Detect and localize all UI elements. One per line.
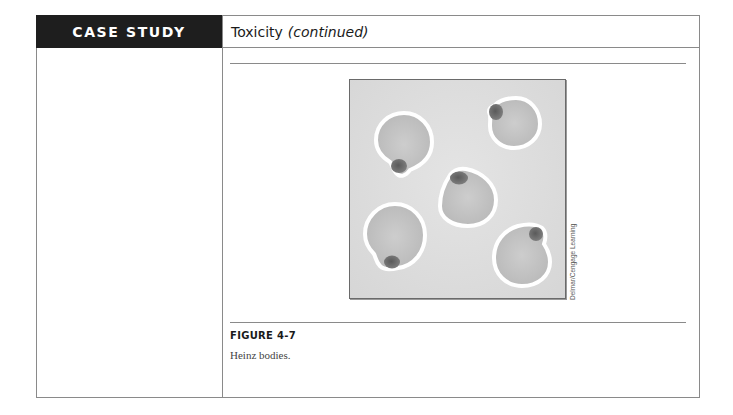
image-credit: Delmar/Cengage Learning	[569, 224, 576, 300]
column-divider	[222, 48, 223, 398]
figure-number: FIGURE 4-7	[230, 330, 296, 341]
section-title-suffix: (continued)	[288, 24, 369, 40]
case-study-label: CASE STUDY	[36, 15, 222, 48]
red-blood-cell	[376, 113, 432, 176]
red-blood-cell	[494, 225, 550, 286]
figure-caption: Heinz bodies.	[230, 349, 290, 361]
red-blood-cell	[489, 98, 540, 148]
heinz-bodies-illustration	[349, 79, 566, 299]
red-blood-cell	[365, 204, 425, 269]
red-blood-cell	[440, 169, 496, 226]
figure-bottom-rule	[230, 322, 686, 323]
section-title-text: Toxicity	[231, 24, 283, 40]
figure-top-rule	[230, 63, 686, 64]
cells-graphic	[350, 80, 567, 300]
section-title: Toxicity (continued)	[222, 15, 700, 48]
